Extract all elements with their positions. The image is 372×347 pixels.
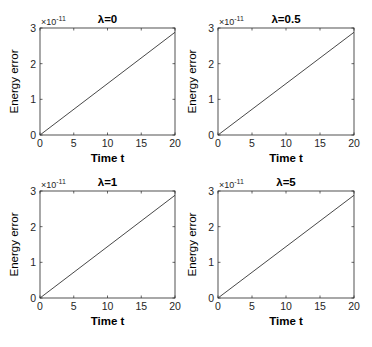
axes-box — [40, 28, 175, 135]
y-axis-label: Energy error — [186, 212, 198, 276]
y-tick-label: 1 — [208, 93, 214, 105]
y-tick-label: 2 — [30, 58, 36, 70]
y-exponent-label: ×10-11 — [219, 15, 244, 27]
x-axis-label: Time t — [269, 152, 303, 164]
y-tick-label: 3 — [208, 185, 214, 197]
x-tick-label: 5 — [249, 137, 255, 149]
x-tick-label: 5 — [71, 137, 77, 149]
y-tick-label: 1 — [30, 256, 36, 268]
x-axis-label: Time t — [269, 315, 303, 327]
subplot-1: 051015200123×10-11λ=0Time tEnergy error — [8, 13, 181, 164]
subplot-2: 051015200123×10-11λ=0.5Time tEnergy erro… — [186, 13, 360, 164]
subplot-4: 051015200123×10-11λ=5Time tEnergy error — [186, 176, 360, 327]
subplot-title: λ=1 — [98, 176, 118, 188]
y-tick-label: 0 — [30, 292, 36, 304]
y-tick-label: 3 — [30, 185, 36, 197]
x-tick-label: 10 — [280, 137, 292, 149]
y-exponent-label: ×10-11 — [41, 15, 66, 27]
y-tick-label: 2 — [30, 221, 36, 233]
y-tick-label: 1 — [30, 93, 36, 105]
y-tick-label: 3 — [208, 22, 214, 34]
axes-box — [40, 191, 175, 298]
subplot-title: λ=0 — [98, 13, 118, 25]
x-tick-label: 10 — [280, 300, 292, 312]
x-tick-label: 15 — [135, 300, 147, 312]
x-tick-label: 0 — [37, 300, 43, 312]
y-tick-label: 0 — [30, 129, 36, 141]
x-tick-label: 10 — [102, 137, 114, 149]
x-axis-label: Time t — [91, 152, 125, 164]
y-tick-label: 2 — [208, 58, 214, 70]
y-tick-label: 1 — [208, 256, 214, 268]
x-tick-label: 15 — [135, 137, 147, 149]
subplot-title: λ=0.5 — [271, 13, 301, 25]
x-tick-label: 0 — [215, 137, 221, 149]
x-tick-label: 15 — [314, 300, 326, 312]
subplot-3: 051015200123×10-11λ=1Time tEnergy error — [8, 176, 181, 327]
subplot-title: λ=5 — [276, 176, 296, 188]
y-tick-label: 0 — [208, 292, 214, 304]
y-exponent-label: ×10-11 — [219, 178, 244, 190]
x-axis-label: Time t — [91, 315, 125, 327]
y-tick-label: 0 — [208, 129, 214, 141]
x-tick-label: 10 — [102, 300, 114, 312]
y-tick-label: 3 — [30, 22, 36, 34]
y-axis-label: Energy error — [8, 212, 20, 276]
x-tick-label: 15 — [314, 137, 326, 149]
y-tick-label: 2 — [208, 221, 214, 233]
x-tick-label: 20 — [348, 137, 360, 149]
x-tick-label: 0 — [215, 300, 221, 312]
y-exponent-label: ×10-11 — [41, 178, 66, 190]
figure: 051015200123×10-11λ=0Time tEnergy error0… — [0, 0, 372, 347]
x-tick-label: 5 — [249, 300, 255, 312]
x-tick-label: 20 — [169, 137, 181, 149]
y-axis-label: Energy error — [8, 49, 20, 113]
axes-box — [218, 191, 354, 298]
x-tick-label: 0 — [37, 137, 43, 149]
y-axis-label: Energy error — [186, 49, 198, 113]
x-tick-label: 5 — [71, 300, 77, 312]
axes-box — [218, 28, 354, 135]
x-tick-label: 20 — [348, 300, 360, 312]
x-tick-label: 20 — [169, 300, 181, 312]
